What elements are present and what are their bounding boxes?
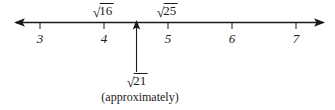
tick-label-5: 5 — [165, 32, 172, 45]
tick-label-6: 6 — [229, 32, 236, 45]
tick-label-3: 3 — [37, 32, 44, 45]
sqrt25-label: √25 — [157, 4, 178, 20]
approximately-note: (approximately) — [101, 91, 178, 103]
sqrt21-label: √21 — [127, 74, 148, 90]
sqrt16-label: √16 — [93, 4, 114, 20]
number-line-figure: 3 4 5 6 7 √16 √25 √21 (approximately) — [0, 0, 335, 110]
tick-label-4: 4 — [101, 32, 108, 45]
sqrt21-radicand: 21 — [133, 73, 147, 87]
sqrt16-radicand: 16 — [99, 3, 113, 17]
sqrt25-radicand: 25 — [163, 3, 177, 17]
tick-label-7: 7 — [293, 32, 300, 45]
